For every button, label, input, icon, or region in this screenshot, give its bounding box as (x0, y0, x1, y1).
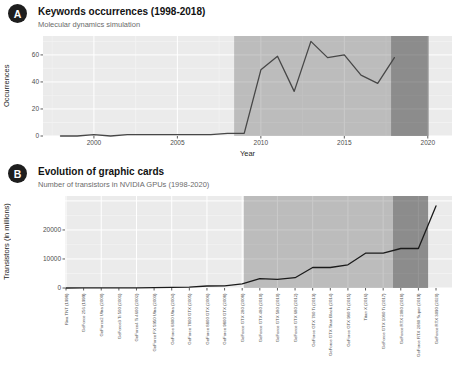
x-tick-label-gpu: GeForce GTX Titan Black (2014) (328, 293, 333, 356)
x-tick-label-gpu: GeForce GTX 480 (2010) (258, 293, 263, 342)
x-tick-label-gpu: GeForce 6800 Ultra (2004) (170, 293, 175, 345)
x-tick-label-gpu: GeForce 7800 GTX (2005) (187, 293, 192, 345)
panel-b-subtitle: Number of transistors in NVIDIA GPUs (19… (38, 180, 209, 189)
x-tick-label-gpu: GeForce GTX 1080 Ti (2017) (381, 293, 386, 349)
x-tick-label-gpu: GeForce GTX 980 Ti (2015) (346, 293, 351, 347)
x-tick-label-gpu: Riva TNT (1998) (64, 293, 69, 325)
two-panel-figure: 020406020002005201020152020 01000020000R… (0, 0, 456, 366)
x-tick-label-gpu: GeForce FX 5950 Ultra (2003) (152, 293, 157, 352)
x-tick-label-gpu: GeForce GTX 280 (2008) (240, 293, 245, 342)
y-tick-label: 0 (57, 284, 61, 291)
x-tick-label-gpu: GeForce GTX 780 Ti (2013) (311, 293, 316, 347)
x-tick-label-gpu: GeForce GTX 580 (2010) (275, 293, 280, 342)
x-tick-label-gpu: GeForce2 Ultra (2000) (99, 293, 104, 337)
x-tick-label-gpu: GeForce RTX 2080 Super (2019) (416, 293, 421, 357)
y-tick-label: 20000 (43, 226, 61, 233)
y-tick-label: 10000 (43, 255, 61, 262)
x-tick-label-gpu: GeForce 9800 GTX (2008) (222, 293, 227, 345)
highlight-band-rtx-era (393, 196, 428, 288)
panel-b-y-axis-title: Transistors (in millions) (1, 196, 12, 288)
panel-a-title: Keywords occurrences (1998-2018) (38, 6, 205, 17)
panel-a-y-axis-title: Occurrences (1, 36, 12, 136)
panel-b-title: Evolution of graphic cards (38, 166, 164, 177)
panel-b-badge: B (8, 164, 27, 183)
x-tick-label-gpu: GeForce 256 (1999) (81, 293, 86, 332)
x-tick-label-gpu: GeForce RTX 2080 (2018) (399, 293, 404, 344)
x-tick-label-gpu: GeForce RTX 3090 (2020) (434, 293, 439, 344)
x-tick-label-gpu: GeForce 8800 GTX (2006) (205, 293, 210, 345)
x-tick-label-gpu: GeForce4 Ti 4600 (2002) (134, 293, 139, 342)
panel-a-x-axis-title: Year (43, 149, 452, 158)
highlight-band-gpu-era (244, 196, 393, 288)
panel-a-badge: A (8, 4, 27, 23)
x-tick-label-gpu: GeForce3 Ti 500 (2001) (117, 293, 122, 339)
x-tick-label-gpu: Titan X (2016) (363, 293, 368, 321)
panel-a-subtitle: Molecular dynamics simulation (38, 20, 140, 29)
x-tick-label-gpu: GeForce GTX 680 (2012) (293, 293, 298, 342)
